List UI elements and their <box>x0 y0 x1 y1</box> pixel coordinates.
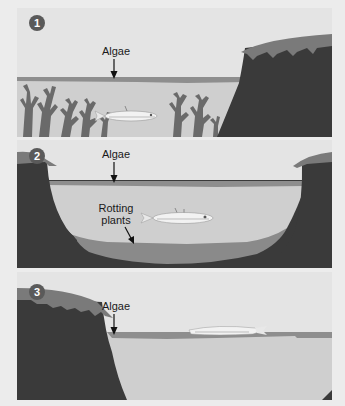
algae-arrow-icon <box>17 272 332 400</box>
panel-3: 3 Algae <box>17 272 332 400</box>
panel-2: 2 Algae Rotting plants <box>17 140 332 268</box>
label-arrows-icon <box>17 140 332 268</box>
panel-1: 1 Algae <box>17 8 332 137</box>
algae-arrow-icon <box>17 8 332 137</box>
